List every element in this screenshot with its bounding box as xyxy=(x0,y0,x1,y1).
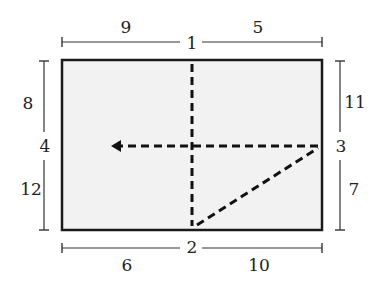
edge-label-right: 3 xyxy=(335,136,348,157)
segment-label-top-left: 9 xyxy=(121,19,132,36)
segment-label-right-bottom: 7 xyxy=(349,181,360,198)
edge-label-bottom: 2 xyxy=(184,239,201,256)
segment-label-bottom-right: 10 xyxy=(248,257,270,274)
segment-label-bottom-left: 6 xyxy=(122,257,133,274)
segment-label-left-bottom: 12 xyxy=(20,181,42,198)
edge-label-left: 4 xyxy=(39,136,52,157)
segment-label-left-top: 8 xyxy=(23,95,34,112)
segment-label-top-right: 5 xyxy=(253,19,264,36)
edge-label-top: 1 xyxy=(184,35,201,52)
segment-label-right-top: 11 xyxy=(344,94,366,111)
fold-diagram: 1 2 3 4 9 5 6 10 8 12 11 7 xyxy=(0,0,384,287)
